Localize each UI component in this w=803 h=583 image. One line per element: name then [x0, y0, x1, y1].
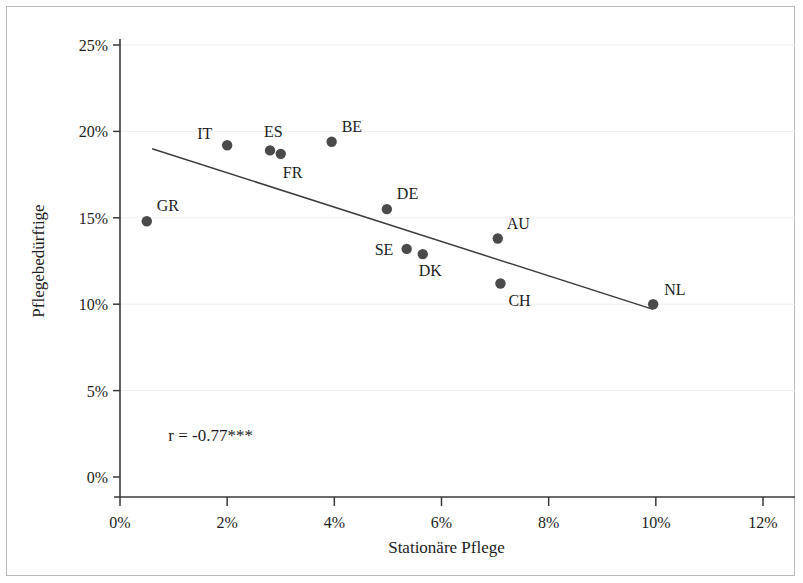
data-point-label-nl: NL [664, 281, 685, 298]
y-axis-tick-label: 0% [87, 469, 108, 486]
data-point-es[interactable] [265, 145, 275, 155]
data-point-se[interactable] [401, 244, 411, 254]
data-point-it[interactable] [222, 140, 232, 150]
data-point-ch[interactable] [495, 278, 505, 288]
data-point-label-it: IT [197, 125, 212, 142]
data-point-nl[interactable] [648, 299, 658, 309]
data-point-label-de: DE [397, 185, 418, 202]
y-axis-tick-label: 20% [79, 123, 108, 140]
data-point-label-dk: DK [419, 262, 443, 279]
y-axis-title: Pflegebedürftige [29, 204, 48, 317]
x-axis-tick-label: 12% [748, 514, 777, 531]
x-axis-title: Stationäre Pflege [388, 538, 505, 557]
x-axis-tick-label: 2% [217, 514, 238, 531]
x-axis-tick-label: 8% [538, 514, 559, 531]
data-point-fr[interactable] [276, 149, 286, 159]
y-axis-tick-label: 5% [87, 383, 108, 400]
data-point-label-be: BE [342, 118, 362, 135]
annotation-correlation: r = -0.77*** [168, 426, 253, 445]
data-point-label-fr: FR [283, 164, 303, 181]
data-point-label-es: ES [264, 123, 283, 140]
y-axis-tick-label: 15% [79, 210, 108, 227]
data-point-label-au: AU [507, 215, 531, 232]
y-axis-tick-label: 25% [79, 37, 108, 54]
x-axis-tick-label: 6% [431, 514, 452, 531]
plot-canvas: 0%5%10%15%20%25%0%2%4%6%8%10%12%Stationä… [0, 0, 803, 583]
data-point-label-gr: GR [157, 197, 180, 214]
x-axis-tick-label: 4% [324, 514, 345, 531]
data-point-de[interactable] [382, 204, 392, 214]
data-point-gr[interactable] [142, 216, 152, 226]
scatter-plot-figure: 0%5%10%15%20%25%0%2%4%6%8%10%12%Stationä… [0, 0, 803, 583]
y-axis-tick-label: 10% [79, 296, 108, 313]
data-point-au[interactable] [493, 233, 503, 243]
data-point-be[interactable] [326, 137, 336, 147]
x-axis-tick-label: 0% [109, 514, 130, 531]
data-point-label-se: SE [375, 241, 394, 258]
data-point-dk[interactable] [418, 249, 428, 259]
data-point-label-ch: CH [508, 292, 531, 309]
regression-line [152, 149, 653, 310]
x-axis-tick-label: 10% [641, 514, 670, 531]
